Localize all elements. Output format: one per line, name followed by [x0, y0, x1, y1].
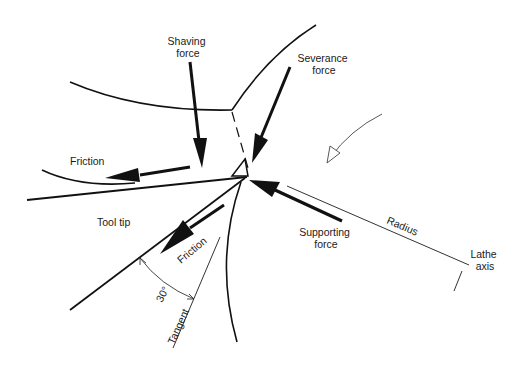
label-tangent: Tangent — [165, 307, 191, 346]
lathe-axis-tick — [454, 271, 462, 291]
cutting-force-diagram: Shaving force Severance force Friction T… — [0, 0, 525, 368]
shaving-force-arrowhead — [193, 138, 207, 168]
label-friction-top: Friction — [70, 155, 105, 167]
tool-tip-chip — [232, 159, 248, 176]
shaving-force-arrow-shaft — [190, 62, 200, 150]
friction-chip-arrowhead — [105, 168, 140, 182]
rotation-arrow-head-icon — [327, 146, 340, 163]
label-radius: Radius — [385, 214, 420, 238]
severance-force-arrowhead — [252, 133, 268, 163]
label-shaving-force: Shaving force — [168, 35, 209, 59]
severance-force-arrow-shaft — [260, 67, 290, 140]
friction-chip-arrow-shaft — [140, 167, 190, 175]
chip-upper-curve — [70, 82, 232, 110]
label-supporting-force: Supporting force — [299, 226, 353, 250]
supporting-force-arrowhead — [249, 180, 280, 197]
label-angle-30: 30° — [153, 284, 171, 304]
label-severance-force: Severance force — [297, 52, 350, 76]
label-lathe-axis: Lathe axis — [470, 248, 499, 272]
workpiece-upper-curve — [232, 25, 316, 110]
label-tool-tip: Tool tip — [97, 216, 130, 228]
workpiece-lower-curve — [226, 182, 241, 342]
